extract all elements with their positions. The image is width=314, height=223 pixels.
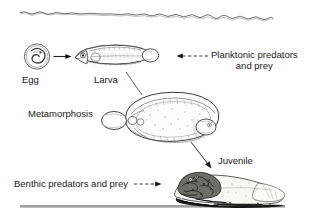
- fish-larva-icon: [75, 45, 159, 66]
- dashed-arrow-planktonic: [177, 54, 209, 59]
- label-juvenile: Juvenile: [218, 155, 253, 166]
- flatfish-life-cycle-figure: Egg Larva Metamorphosis Juvenile Plankto…: [0, 0, 314, 223]
- dashed-arrow-benthic: [134, 182, 162, 187]
- flatfish-metamorphosis-icon: [102, 92, 219, 142]
- fish-egg-icon: [24, 44, 49, 69]
- label-benthic-predators-and-prey: Benthic predators and prey: [14, 178, 128, 189]
- label-planktonic-line2: and prey: [211, 60, 298, 71]
- arrow-egg-to-larva: [54, 54, 72, 59]
- connector-larva-to-metamorphosis: [126, 72, 142, 95]
- label-planktonic-line1: Planktonic predators: [211, 49, 298, 60]
- label-planktonic-predators-and-prey: Planktonic predatorsand prey: [211, 49, 298, 71]
- label-egg: Egg: [22, 74, 39, 85]
- arrow-metamorphosis-to-juvenile: [191, 142, 212, 169]
- water-surface-line: [20, 12, 273, 21]
- label-metamorphosis: Metamorphosis: [28, 108, 93, 119]
- label-larva: Larva: [94, 74, 118, 85]
- benthic-juvenile-flatfish-icon: [175, 172, 285, 208]
